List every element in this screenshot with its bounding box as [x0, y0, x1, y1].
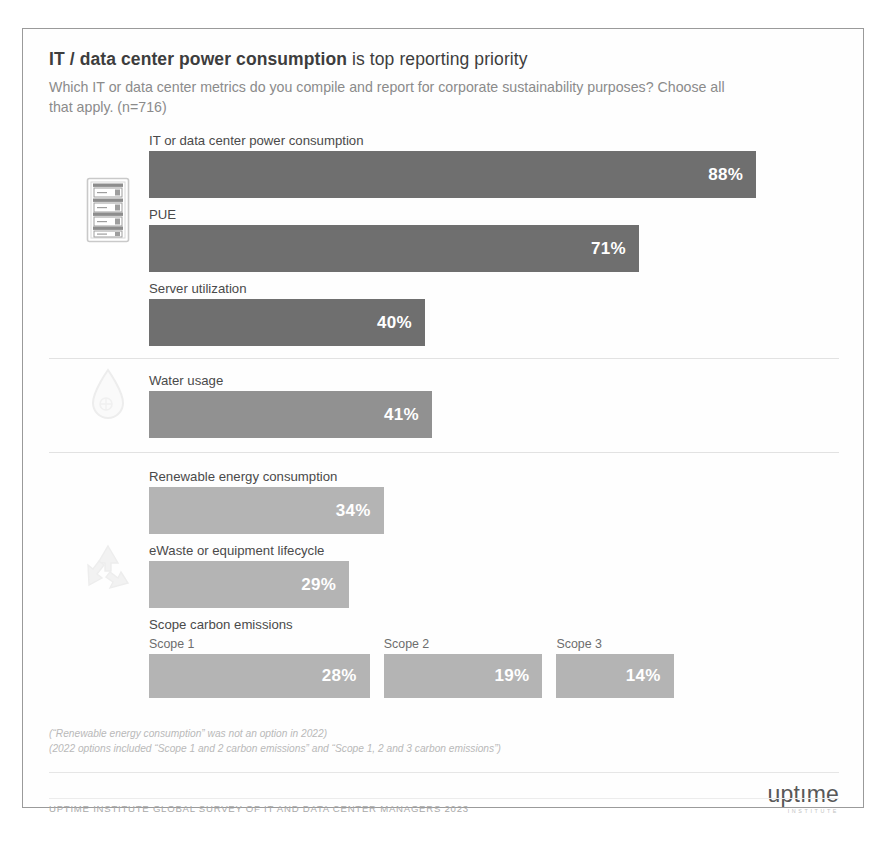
- bar-row: PUE 71%: [149, 207, 839, 272]
- scope-carbon-group: Scope carbon emissions Scope 1 28% Scope…: [149, 617, 839, 698]
- bar-row: Renewable energy consumption 34%: [149, 469, 839, 534]
- bar-row: Server utilization 40%: [149, 281, 839, 346]
- logo-subtext: institute: [767, 809, 839, 814]
- bar-value: 40%: [377, 313, 425, 333]
- slide-footer: Uptime Institute Global Survey of IT and…: [49, 772, 839, 814]
- server-rack-icon: [77, 177, 139, 243]
- bar-value: 28%: [322, 666, 370, 686]
- bar-label: IT or data center power consumption: [149, 133, 839, 149]
- bar-label: Scope 2: [384, 636, 543, 652]
- scope-bars: Scope 1 28% Scope 2 19% Scop: [149, 636, 839, 698]
- footer-rule: [49, 798, 839, 799]
- page-title-bold: IT / data center power consumption: [49, 49, 347, 69]
- slide-card: IT / data center power consumption is to…: [22, 28, 864, 808]
- bar: 41%: [149, 391, 432, 438]
- chart-group-power: IT or data center power consumption 88% …: [49, 131, 839, 358]
- bar: 34%: [149, 487, 384, 534]
- bar: 28%: [149, 654, 370, 698]
- page-subtitle: Which IT or data center metrics do you c…: [49, 77, 749, 117]
- bar-label: Server utilization: [149, 281, 839, 297]
- bar-value: 14%: [626, 666, 674, 686]
- bar-label: Scope 3: [556, 636, 673, 652]
- footnotes: (“Renewable energy consumption” was not …: [49, 726, 839, 756]
- bar-label: Scope 1: [149, 636, 370, 652]
- bar-label: Renewable energy consumption: [149, 469, 839, 485]
- bar: 19%: [384, 654, 543, 698]
- page-title-rest: is top reporting priority: [347, 49, 528, 69]
- bar-chart: IT or data center power consumption 88% …: [49, 131, 839, 704]
- scope-column: Scope 1 28%: [149, 636, 370, 698]
- bar-label: eWaste or equipment lifecycle: [149, 543, 839, 559]
- bar-value: 88%: [708, 165, 756, 185]
- footnote-1: (“Renewable energy consumption” was not …: [49, 726, 839, 741]
- bar: 71%: [149, 225, 639, 272]
- bar: 29%: [149, 561, 349, 608]
- bar-row: IT or data center power consumption 88%: [149, 133, 839, 198]
- bar-label: PUE: [149, 207, 839, 223]
- bar-value: 29%: [301, 575, 349, 595]
- bar-value: 34%: [336, 501, 384, 521]
- bar: 40%: [149, 299, 425, 346]
- chart-group-water: Water usage 41%: [49, 358, 839, 452]
- bar-row: eWaste or equipment lifecycle 29%: [149, 543, 839, 608]
- scope-column: Scope 2 19%: [384, 636, 543, 698]
- bar-row: Water usage 41%: [149, 373, 839, 438]
- footnote-2: (2022 options included “Scope 1 and 2 ca…: [49, 741, 839, 756]
- logo-wordmark: uptıme: [767, 783, 839, 806]
- bar: 14%: [556, 654, 673, 698]
- bar-label: Water usage: [149, 373, 839, 389]
- slide-inner: IT / data center power consumption is to…: [23, 29, 863, 807]
- recycle-icon: [77, 541, 139, 593]
- bar-value: 41%: [384, 405, 432, 425]
- page-title: IT / data center power consumption is to…: [49, 49, 839, 70]
- bar: 88%: [149, 151, 756, 198]
- chart-group-sustainability: Renewable energy consumption 34% eWaste …: [49, 452, 839, 704]
- bar-value: 71%: [591, 239, 639, 259]
- water-drop-icon: [77, 367, 139, 425]
- scope-column: Scope 3 14%: [556, 636, 673, 698]
- bar-value: 19%: [495, 666, 543, 686]
- source-line: Uptime Institute Global Survey of IT and…: [49, 803, 469, 814]
- scope-group-title: Scope carbon emissions: [149, 617, 839, 632]
